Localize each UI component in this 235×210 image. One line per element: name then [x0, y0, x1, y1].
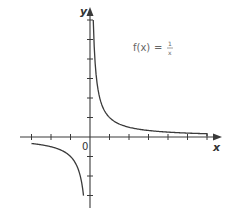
y-axis-label: y	[80, 5, 88, 18]
function-equals: =	[154, 42, 162, 53]
fraction-denominator: x	[168, 49, 172, 56]
function-annotation: f(x) = 1 x	[133, 40, 173, 56]
function-graph: y x 0 f(x) = 1 x	[0, 0, 235, 210]
fraction-numerator: 1	[168, 40, 172, 47]
curve-positive-branch	[93, 20, 207, 136]
axis-ticks	[32, 20, 208, 196]
origin-label: 0	[82, 141, 88, 152]
x-axis-arrow-icon	[213, 134, 222, 141]
function-lhs: f(x)	[133, 42, 150, 53]
x-axis-label: x	[212, 141, 221, 154]
y-axis-arrow-icon	[87, 7, 94, 16]
curve-negative-branch	[32, 144, 84, 196]
